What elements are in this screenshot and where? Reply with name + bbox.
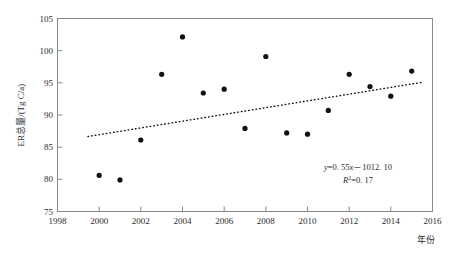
x-tick-label: 2008 [257,216,276,226]
equation-body: =0. 55 [328,162,350,172]
x-axis-title: 年份 [417,234,435,245]
y-tick-label: 85 [44,142,54,152]
x-tick-label: 2002 [132,216,150,226]
x-tick-label: 2014 [382,216,401,226]
data-point [284,130,289,135]
data-point [242,126,247,131]
data-point [97,173,102,178]
r-squared-line: R2=0. 17 [342,175,373,185]
r-squared-value: =0. 17 [351,175,373,185]
y-tick-label: 95 [44,78,54,88]
y-tick-label: 80 [44,174,54,184]
equation-tail: －1012. 10 [353,162,392,172]
scatter-chart-svg: 105 100 95 90 85 80 75 1998 2000 2002 [0,0,455,260]
x-tick-label: 2012 [340,216,358,226]
equation-line: y=0. 55x－1012. 10 [323,162,392,172]
y-axis-title: ER总量/(Tg C/a) [15,84,26,147]
x-tick-label: 2006 [215,216,234,226]
x-tick-label: 1998 [49,216,68,226]
x-tick-label: 2000 [90,216,109,226]
data-point [201,90,206,95]
y-tick-label: 105 [40,14,54,24]
data-point [347,72,352,77]
data-point [263,54,268,59]
data-point [117,177,122,182]
x-tick-label: 2004 [174,216,193,226]
data-point [222,87,227,92]
chart-figure: 105 100 95 90 85 80 75 1998 2000 2002 [0,0,455,260]
x-tick-label: 2016 [424,216,443,226]
data-point [367,84,372,89]
y-tick-label: 90 [44,110,54,120]
data-point [305,132,310,137]
x-tick-label: 2010 [299,216,318,226]
y-tick-label: 100 [40,46,54,56]
data-point [388,94,393,99]
data-point [409,69,414,74]
data-point [180,34,185,39]
y-tick-label: 75 [44,207,54,217]
data-point [159,72,164,77]
data-point [138,137,143,142]
data-point [326,108,331,113]
